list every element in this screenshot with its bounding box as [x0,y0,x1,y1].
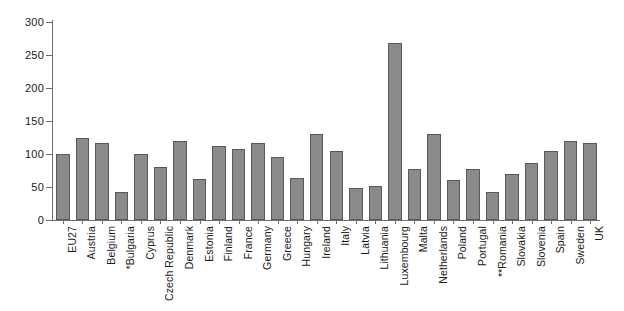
bar-slot [541,0,561,221]
x-axis-tick [160,221,161,224]
bar-slot [327,0,347,221]
x-axis-tick-label: Netherlands [438,226,449,284]
x-axis-tick-label: EU27 [67,226,78,253]
bar [583,143,597,220]
bar [330,151,344,220]
bar-slot [229,0,249,221]
bar-slot [190,0,210,221]
x-axis-tick [551,221,552,224]
bar [505,174,519,220]
bar-slot [580,0,600,221]
x-axis-tick [493,221,494,224]
bar-slot [346,0,366,221]
bar-slot [444,0,464,221]
y-axis-tick-label: 300 [0,17,44,28]
bar-slot [287,0,307,221]
bar [369,186,383,220]
bar-slot [248,0,268,221]
x-axis-tick [239,221,240,224]
bar-slot [73,0,93,221]
x-axis-tick-label: Latvia [360,226,371,255]
bar [564,141,578,220]
bar [447,180,461,220]
x-axis-tick [63,221,64,224]
bar-slot [366,0,386,221]
x-axis-tick-label: Czech Republic [164,226,175,301]
x-axis-tick-label: Spain [555,226,566,253]
x-axis-tick-label: Malta [418,226,429,252]
y-axis-tick-label: 100 [0,149,44,160]
x-axis-tick-label: Finland [223,226,234,261]
x-axis-tick-label: Greece [282,226,293,261]
x-axis-tick-label: Austria [86,226,97,259]
bar-series [53,0,600,221]
bar [466,169,480,220]
x-axis-tick [297,221,298,224]
x-axis-tick [82,221,83,224]
x-axis-tick-label: Hungary [301,226,312,266]
bar-slot [385,0,405,221]
x-axis-tick [200,221,201,224]
x-axis-tick-label: Lithuania [379,226,390,270]
x-axis-tick [258,221,259,224]
x-axis-tick [180,221,181,224]
bar [251,143,265,220]
x-axis-tick [219,221,220,224]
x-axis-tick [532,221,533,224]
x-axis-tick [590,221,591,224]
bar-slot [53,0,73,221]
x-axis-tick [278,221,279,224]
y-axis-tick-label: 150 [0,116,44,127]
x-axis-tick [141,221,142,224]
bar [290,178,304,220]
x-axis-tick [473,221,474,224]
x-axis-tick-label: Luxembourg [399,226,410,285]
x-axis-tick [414,221,415,224]
bar-slot [522,0,542,221]
bar-slot [209,0,229,221]
bar [95,143,109,220]
bar [486,192,500,220]
x-axis-tick-label: Portugal [477,226,488,266]
x-axis-tick [512,221,513,224]
x-axis-tick-label: Sweden [575,226,586,265]
x-axis-tick-label: Belgium [106,226,117,265]
x-axis-tick [395,221,396,224]
x-axis-tick [453,221,454,224]
x-axis-tick-label: Germany [262,226,273,270]
bar [388,43,402,220]
bar [408,169,422,220]
x-axis-tick [434,221,435,224]
x-axis-tick-label: Cyprus [145,226,156,260]
bar-slot [463,0,483,221]
x-axis-tick-label: Poland [457,226,468,259]
x-axis-tick [102,221,103,224]
x-axis-tick [336,221,337,224]
bar [76,138,90,220]
bar [310,134,324,220]
bar [427,134,441,220]
y-axis-tick-label: 250 [0,50,44,61]
bar-slot [405,0,425,221]
bar [212,146,226,220]
x-axis-tick-label: Slovakia [516,226,527,267]
x-axis-tick-label: **Romania [497,226,508,277]
x-axis-tick [317,221,318,224]
bar [193,179,207,220]
bar-slot [92,0,112,221]
bar [349,188,363,220]
bar [134,154,148,220]
bar-slot [131,0,151,221]
y-axis-tick-label: 200 [0,83,44,94]
bar-slot [561,0,581,221]
x-axis-tick-label: Ireland [321,226,332,259]
bar-slot [268,0,288,221]
bar [525,163,539,220]
bar [271,157,285,220]
x-axis-tick-label: Estonia [204,226,215,262]
bar [544,151,558,220]
x-axis-tick-label: *Bulgaria [125,226,136,270]
x-axis-tick [571,221,572,224]
bar-slot [502,0,522,221]
x-axis-tick [375,221,376,224]
